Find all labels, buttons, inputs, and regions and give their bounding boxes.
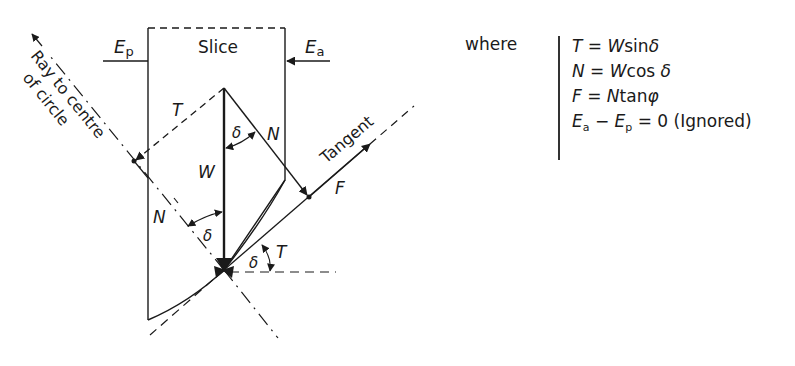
delta-lower-left-label: δ	[203, 227, 212, 245]
ep-label: Ep	[114, 36, 134, 59]
slice-right-side	[224, 28, 285, 270]
equation-row: T = Wsinδ	[572, 34, 795, 59]
equation-row: N = Wcos δ	[572, 59, 795, 84]
weight-label: W	[198, 162, 216, 182]
slice-label: Slice	[198, 37, 238, 57]
angle-arc-lower-left-delta	[188, 212, 222, 226]
tangent-dashed-extension	[370, 106, 414, 144]
ray-direction-arrow	[32, 34, 42, 46]
angle-arc-lower-right-delta	[262, 245, 270, 271]
equation-row: Ea − Ep = 0 (Ignored)	[572, 109, 795, 134]
friction-label: F	[335, 178, 345, 198]
normal-lower-label: N	[153, 207, 166, 227]
tangent-label: Tangent	[316, 112, 378, 168]
delta-upper-label: δ	[232, 124, 241, 142]
normal-upper-label: N	[267, 124, 280, 144]
shear-upper-label: T	[172, 100, 184, 120]
where-label: where	[465, 34, 517, 54]
equation-row: F = Ntanφ	[572, 84, 795, 109]
shear-force-dashed-arrow	[136, 88, 224, 160]
ray-short-segment	[134, 161, 148, 178]
delta-lower-right-label: δ	[249, 254, 258, 272]
ea-label: Ea	[305, 36, 324, 59]
ray-lower-tick	[174, 198, 178, 203]
equation-brace-bar	[558, 36, 560, 160]
shear-lower-label: T	[276, 242, 288, 262]
ray-extension-below	[224, 270, 278, 338]
